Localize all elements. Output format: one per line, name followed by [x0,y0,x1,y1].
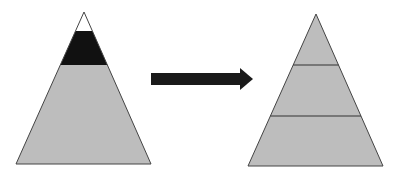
right-pyramid-body [248,14,383,166]
pyramid-diagram [0,0,396,177]
right-pyramid [248,14,383,166]
left-pyramid [16,12,151,164]
arrow-right-icon [151,68,253,90]
left-pyramid-base-band [16,65,151,164]
left-pyramid-tip [76,12,93,31]
